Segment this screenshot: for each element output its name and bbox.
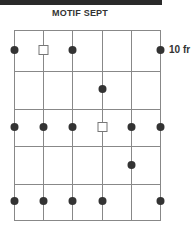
dot-marker — [128, 123, 136, 131]
dot-marker — [11, 123, 19, 131]
dot-marker — [11, 46, 19, 54]
square-marker — [39, 46, 48, 55]
dot-marker — [99, 85, 107, 93]
motif-grid — [0, 0, 192, 235]
dot-marker — [11, 197, 19, 205]
dot-marker — [40, 197, 48, 205]
dot-marker — [40, 123, 48, 131]
square-marker — [98, 123, 107, 132]
dot-marker — [69, 123, 77, 131]
dot-marker — [157, 123, 165, 131]
dot-marker — [128, 161, 136, 169]
dot-marker — [157, 197, 165, 205]
dot-marker — [99, 197, 107, 205]
price-label: 10 fr — [169, 44, 190, 55]
dot-marker — [69, 46, 77, 54]
dot-marker — [157, 46, 165, 54]
dot-marker — [69, 197, 77, 205]
